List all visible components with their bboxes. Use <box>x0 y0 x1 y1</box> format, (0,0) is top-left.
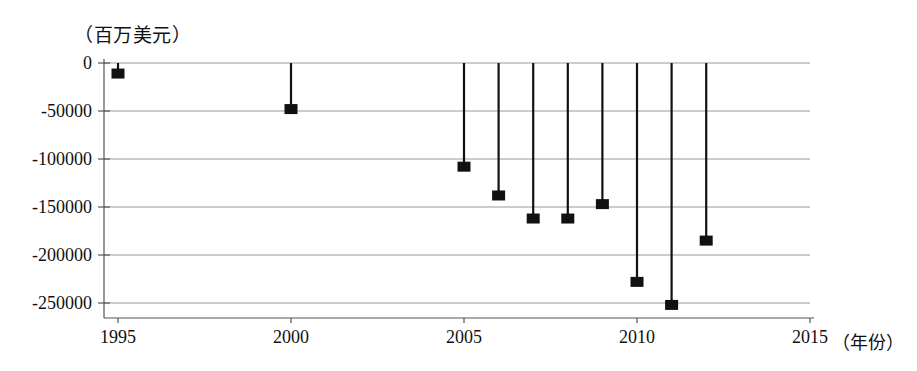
y-tick-label: -150000 <box>32 198 92 216</box>
y-tick-label: -50000 <box>41 102 92 120</box>
y-tick-label: 0 <box>83 54 92 72</box>
plot-area <box>0 0 917 371</box>
x-tick-label: 1995 <box>100 328 136 346</box>
x-tick-label: 2015 <box>792 328 828 346</box>
axis-lines <box>104 59 814 318</box>
data-point-marker <box>527 214 540 224</box>
gridlines <box>104 63 810 303</box>
data-point-marker <box>631 277 644 287</box>
data-point-markers <box>112 69 713 310</box>
x-tick-label: 2000 <box>273 328 309 346</box>
x-tick-marks <box>118 318 810 323</box>
y-tick-label: -200000 <box>32 246 92 264</box>
y-tick-label: -250000 <box>32 294 92 312</box>
data-point-marker <box>665 300 678 310</box>
data-point-marker <box>700 236 713 246</box>
x-tick-label: 2010 <box>619 328 655 346</box>
stem-lines <box>118 63 706 305</box>
data-point-marker <box>561 214 574 224</box>
data-point-marker <box>458 162 471 172</box>
x-tick-label: 2005 <box>446 328 482 346</box>
data-point-marker <box>285 104 298 114</box>
data-point-marker <box>596 199 609 209</box>
data-point-marker <box>112 69 125 79</box>
stem-chart: （百万美元） （年份） 0-50000-100000-150000-200000… <box>0 0 917 371</box>
y-tick-label: -100000 <box>32 150 92 168</box>
data-point-marker <box>492 190 505 200</box>
